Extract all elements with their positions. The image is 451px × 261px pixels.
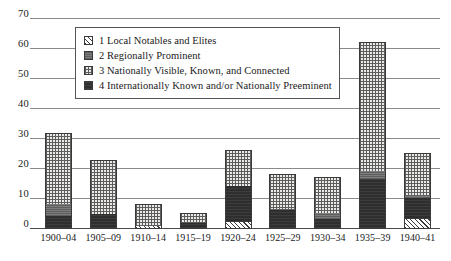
- bar-segment-p4: [180, 223, 207, 229]
- y-axis-tick-label: 70: [18, 8, 29, 19]
- bar-segment-p3: [359, 42, 386, 171]
- legend-swatch-internationally-known-icon: [84, 81, 93, 90]
- bar-segment-p4: [90, 214, 117, 229]
- legend-label: 4 Internationally Known and/or Nationall…: [99, 80, 332, 91]
- x-axis-tick-label: 1915–19: [175, 232, 211, 243]
- legend-item: 4 Internationally Known and/or Nationall…: [84, 78, 331, 93]
- gridline: [36, 18, 440, 19]
- bar-segment-p4: [269, 210, 296, 229]
- bar-segment-p4: [404, 198, 431, 220]
- legend-label: 2 Regionally Prominent: [99, 50, 200, 61]
- bar-segment-p3: [225, 150, 252, 185]
- bar-segment-p3: [404, 153, 431, 196]
- bar-1900-04: [45, 133, 72, 229]
- bar-segment-p4: [359, 179, 386, 229]
- bar-segment-p3: [269, 174, 296, 209]
- bar-segment-p4: [45, 216, 72, 230]
- y-axis-tick-mark: [30, 78, 36, 79]
- y-axis-tick-label: 50: [18, 68, 29, 79]
- y-axis-tick-label: 0: [24, 218, 29, 229]
- x-axis-tick-label: 1920–24: [220, 232, 256, 243]
- y-axis-tick-mark: [30, 48, 36, 49]
- bar-1930-34: [314, 177, 341, 229]
- x-axis-tick-label: 1900–04: [41, 232, 77, 243]
- y-axis-tick-label: 30: [18, 128, 29, 139]
- y-axis-tick-label: 40: [18, 98, 29, 109]
- bar-1905-09: [90, 160, 117, 229]
- bar-segment-p2: [314, 213, 341, 219]
- bar-segment-p3: [135, 204, 162, 226]
- stacked-bar-chart: 010203040506070 1900–041905–091910–14191…: [0, 0, 451, 261]
- y-axis-tick-mark: [30, 168, 36, 169]
- bar-segment-p2: [45, 204, 72, 216]
- bar-segment-p4: [314, 219, 341, 229]
- legend-swatch-nationally-visible-icon: [84, 66, 93, 75]
- bar-segment-p3: [45, 133, 72, 204]
- bar-1910-14: [135, 204, 162, 229]
- bar-segment-p3: [180, 213, 207, 223]
- bar-segment-p4: [225, 186, 252, 223]
- x-axis-tick-label: 1925–29: [265, 232, 301, 243]
- y-axis-tick-mark: [30, 18, 36, 19]
- y-axis-tick-mark: [30, 198, 36, 199]
- bar-segment-p3: [90, 160, 117, 214]
- x-axis-tick-label: 1935–39: [355, 232, 391, 243]
- y-axis-tick-mark: [30, 108, 36, 109]
- bar-segment-p2: [404, 195, 431, 197]
- legend-swatch-regionally-prominent-icon: [84, 51, 93, 60]
- bar-1935-39: [359, 42, 386, 230]
- x-axis-tick-label: 1905–09: [85, 232, 121, 243]
- y-axis-tick-label: 10: [18, 188, 29, 199]
- legend-swatch-local-notables-icon: [84, 36, 93, 45]
- bar-segment-p2: [359, 171, 386, 179]
- bar-1940-41: [404, 153, 431, 230]
- bar-segment-p3: [314, 177, 341, 213]
- x-axis-tick-label: 1910–14: [130, 232, 166, 243]
- bar-segment-p1: [135, 226, 162, 229]
- x-axis-tick-label: 1930–34: [310, 232, 346, 243]
- legend-item: 2 Regionally Prominent: [84, 48, 331, 63]
- bar-1925-29: [269, 174, 296, 229]
- legend-item: 3 Nationally Visible, Known, and Connect…: [84, 63, 331, 78]
- bar-1920-24: [225, 150, 252, 229]
- y-axis-tick-mark: [30, 138, 36, 139]
- bar-segment-p2: [269, 209, 296, 211]
- legend-item: 1 Local Notables and Elites: [84, 33, 331, 48]
- bar-segment-p1: [225, 222, 252, 229]
- chart-legend: 1 Local Notables and Elites 2 Regionally…: [75, 27, 340, 99]
- x-axis-tick-label: 1940–41: [400, 232, 436, 243]
- y-axis-tick-label: 20: [18, 158, 29, 169]
- y-axis-tick-label: 60: [18, 38, 29, 49]
- bar-segment-p1: [404, 219, 431, 229]
- legend-label: 1 Local Notables and Elites: [99, 35, 216, 46]
- legend-label: 3 Nationally Visible, Known, and Connect…: [99, 65, 290, 76]
- bar-1915-19: [180, 213, 207, 229]
